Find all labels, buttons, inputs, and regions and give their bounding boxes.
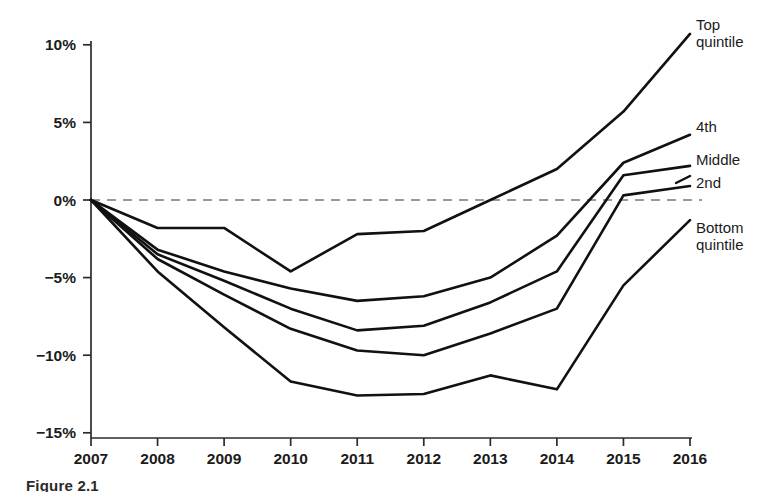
x-tick-label-4: 2011 — [340, 450, 374, 467]
x-tick-label-6: 2013 — [473, 450, 508, 467]
x-tick-label-7: 2014 — [540, 450, 575, 467]
y-tick-label-4: −10% — [36, 347, 76, 364]
x-tick-label-9: 2016 — [673, 450, 708, 467]
series-label-line2-0: quintile — [696, 33, 744, 50]
series-label-line1-4: Bottom — [696, 219, 744, 236]
series-line-3 — [91, 186, 690, 355]
y-axis-ticks — [83, 45, 91, 433]
y-tick-label-3: −5% — [45, 269, 77, 286]
y-tick-label-1: 5% — [54, 114, 77, 131]
x-axis-tick-labels: 2007200820092010201120122013201420152016 — [74, 450, 708, 467]
y-tick-label-2: 0% — [54, 192, 77, 209]
x-tick-label-3: 2010 — [273, 450, 307, 467]
figure-caption: Figure 2.1 — [26, 477, 99, 492]
series-label-line1-2: Middle — [696, 151, 740, 168]
x-tick-label-8: 2015 — [606, 450, 641, 467]
series-label-3: 2nd — [696, 174, 721, 191]
series-line-2 — [91, 166, 690, 331]
series-labels: Topquintile4thMiddle2ndBottomquintile — [696, 16, 744, 253]
axes — [83, 41, 692, 446]
series-label-1: 4th — [696, 118, 717, 135]
y-tick-label-0: 10% — [45, 36, 76, 53]
x-tick-label-2: 2009 — [207, 450, 242, 467]
x-tick-label-0: 2007 — [74, 450, 108, 467]
y-tick-label-5: −15% — [36, 424, 76, 441]
figure-root: 10%5%0%−5%−10%−15% 200720082009201020112… — [0, 0, 774, 492]
line-chart: 10%5%0%−5%−10%−15% 200720082009201020112… — [0, 0, 774, 492]
series-label-line2-4: quintile — [696, 236, 744, 253]
y-axis-tick-labels: 10%5%0%−5%−10%−15% — [36, 36, 76, 441]
series-line-1 — [91, 135, 690, 301]
series-leader-lines — [676, 176, 690, 183]
series-label-2: Middle — [696, 151, 740, 168]
data-series-group — [91, 34, 690, 396]
series-label-line1-0: Top — [696, 16, 720, 33]
series-leader-3 — [676, 176, 690, 183]
series-label-line1-3: 2nd — [696, 174, 721, 191]
series-label-line1-1: 4th — [696, 118, 717, 135]
series-label-4: Bottomquintile — [696, 219, 744, 253]
series-label-0: Topquintile — [696, 16, 744, 50]
x-tick-label-1: 2008 — [140, 450, 175, 467]
x-tick-label-5: 2012 — [407, 450, 441, 467]
x-axis-ticks — [91, 438, 690, 446]
